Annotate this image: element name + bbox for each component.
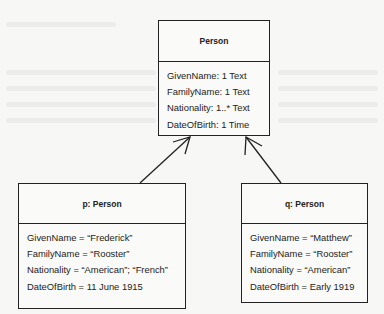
instance-attributes: GivenName = “Matthew” FamilyName = “Roos… <box>242 224 367 295</box>
class-title: Person <box>159 21 269 62</box>
attribute: Nationality = “American”; “French” <box>27 262 185 278</box>
instance-attributes: GivenName = “Frederick” FamilyName = “Ro… <box>19 224 185 295</box>
class-attributes: GivenName: 1 Text FamilyName: 1 Text Nat… <box>159 62 269 133</box>
attribute: FamilyName = “Rooster” <box>27 246 185 262</box>
instance-box-q: q: Person GivenName = “Matthew” FamilyNa… <box>241 183 368 303</box>
attribute: Nationality = “American” <box>250 262 367 278</box>
attribute: GivenName = “Matthew” <box>250 230 367 246</box>
instance-title: p: Person <box>19 184 185 224</box>
attribute: FamilyName: 1 Text <box>167 84 269 100</box>
attribute: FamilyName = “Rooster” <box>250 246 367 262</box>
arrow-q-to-person <box>246 137 281 183</box>
attribute: Nationality: 1..* Text <box>167 100 269 116</box>
instance-box-p: p: Person GivenName = “Frederick” Family… <box>18 183 186 309</box>
attribute: DateOfBirth: 1 Time <box>167 117 269 133</box>
attribute: DateOfBirth = Early 1919 <box>250 279 367 295</box>
instance-title: q: Person <box>242 184 367 224</box>
attribute: GivenName = “Frederick” <box>27 230 185 246</box>
arrow-p-to-person <box>140 137 190 183</box>
class-box-person: Person GivenName: 1 Text FamilyName: 1 T… <box>158 20 270 136</box>
attribute: DateOfBirth = 11 June 1915 <box>27 279 185 295</box>
attribute: GivenName: 1 Text <box>167 68 269 84</box>
